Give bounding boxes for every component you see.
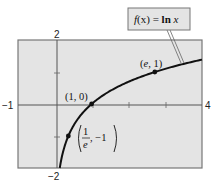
data-point <box>152 70 157 75</box>
data-point <box>89 102 94 107</box>
x-max-label: 4 <box>205 100 211 111</box>
plot-area <box>18 40 202 168</box>
label-rest: , 1) <box>148 58 163 70</box>
y-min-label: −2 <box>48 171 60 182</box>
frac-denominator: e <box>83 139 88 150</box>
y-max-label: 2 <box>54 29 60 40</box>
data-point <box>66 134 71 139</box>
frac-rest: , −1 <box>90 132 106 143</box>
frac-numerator: 1 <box>83 126 88 137</box>
point-label-1-0: (1, 0) <box>65 91 88 103</box>
ln-chart: −1 4 2 −2 (1, 0) (e, 1) 1 e , −1 f(x) = … <box>0 0 215 184</box>
x-min-label: −1 <box>2 100 14 111</box>
point-label-e-1: (e, 1) <box>140 58 163 70</box>
function-label: f(x) = ln x <box>134 13 179 26</box>
